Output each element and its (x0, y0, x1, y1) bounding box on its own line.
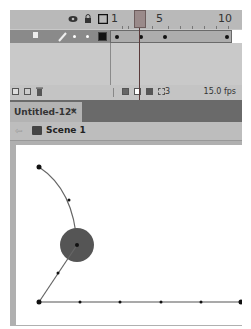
outline-icon[interactable] (98, 14, 108, 24)
path-point[interactable] (37, 300, 42, 305)
ground-point[interactable] (239, 300, 243, 305)
new-folder-icon[interactable] (24, 88, 31, 95)
tick (228, 26, 229, 29)
stage-drawing (16, 145, 242, 325)
path-point[interactable] (37, 165, 42, 170)
layer-name-area[interactable] (10, 30, 110, 43)
tick (168, 26, 169, 29)
delete-icon[interactable] (36, 87, 43, 97)
tick (152, 26, 153, 29)
tick (204, 26, 205, 29)
stage-area (10, 141, 242, 326)
layer-row[interactable] (10, 30, 242, 43)
outline-color-swatch[interactable] (98, 32, 107, 41)
lock-dot[interactable] (86, 35, 89, 38)
frame-number-10: 10 (218, 12, 232, 25)
flash-app: 1 5 10 (10, 10, 242, 326)
onion-skin-icon[interactable] (122, 88, 129, 95)
center-frame-icon[interactable] (113, 88, 114, 97)
tick (180, 26, 181, 29)
playhead-line (139, 28, 140, 100)
path-point[interactable] (68, 199, 71, 202)
back-arrow-icon[interactable]: ⇦ (15, 126, 23, 136)
visibility-dot[interactable] (73, 35, 76, 38)
pencil-icon (58, 31, 68, 42)
new-layer-icon[interactable] (12, 88, 19, 95)
frames-empty (232, 30, 242, 43)
ground-point[interactable] (79, 301, 82, 304)
scene-label[interactable]: Scene 1 (46, 125, 86, 135)
layer-frames[interactable] (110, 30, 232, 43)
tick (216, 26, 217, 29)
layer-icon (32, 31, 40, 40)
frame-number-1: 1 (111, 12, 118, 25)
tick (122, 26, 123, 29)
keyframe[interactable] (163, 35, 167, 39)
close-icon[interactable]: × (70, 106, 78, 116)
keyframe[interactable] (115, 35, 119, 39)
tick (128, 26, 129, 29)
tab-title: Untitled-12* (14, 107, 76, 117)
document-tab-bar: Untitled-12* × (10, 100, 242, 122)
eye-icon[interactable] (68, 14, 78, 24)
timeline-header: 1 5 10 (10, 10, 242, 29)
lock-icon[interactable] (83, 14, 93, 24)
scene-bar: ⇦ Scene 1 (10, 122, 242, 141)
frame-number-5: 5 (156, 12, 163, 25)
document-tab[interactable]: Untitled-12* × (10, 102, 82, 122)
tick (192, 26, 193, 29)
frame-rate[interactable]: 15.0 fps (204, 87, 236, 96)
ground-point[interactable] (200, 301, 203, 304)
edit-multiple-frames-icon[interactable] (146, 88, 153, 95)
keyframe[interactable] (225, 35, 229, 39)
modify-markers-icon[interactable] (158, 88, 165, 95)
ground-point[interactable] (160, 301, 163, 304)
path-point[interactable] (57, 272, 60, 275)
layers-empty-area (10, 43, 242, 85)
timeline-toolbar: 3 15.0 fps (10, 85, 242, 100)
stage[interactable] (16, 145, 242, 325)
playhead[interactable] (134, 10, 146, 28)
path-point[interactable] (75, 243, 79, 247)
clapperboard-icon (32, 126, 42, 135)
ground-point[interactable] (119, 301, 122, 304)
current-frame-count: 3 (165, 87, 170, 96)
